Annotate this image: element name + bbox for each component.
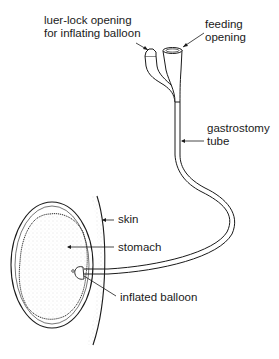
- label-feeding-line2: opening: [205, 31, 246, 44]
- y-connector: [145, 48, 182, 103]
- label-feeding-line1: feeding: [205, 18, 246, 31]
- label-luer-lock-line1: luer-lock opening: [44, 14, 141, 27]
- label-luer-lock: luer-lock opening for inflating balloon: [44, 14, 141, 40]
- label-tube-line2: tube: [207, 135, 270, 148]
- label-gastrostomy-tube: gastrostomy tube: [207, 122, 270, 148]
- label-stomach: stomach: [118, 241, 161, 254]
- label-luer-lock-line2: for inflating balloon: [44, 27, 141, 40]
- label-tube-line1: gastrostomy: [207, 122, 270, 135]
- label-feeding-opening: feeding opening: [205, 18, 246, 44]
- stomach-shape: [11, 202, 93, 328]
- label-skin: skin: [118, 213, 138, 226]
- label-inflated-balloon: inflated balloon: [120, 291, 197, 304]
- gastrostomy-diagram: [0, 0, 279, 359]
